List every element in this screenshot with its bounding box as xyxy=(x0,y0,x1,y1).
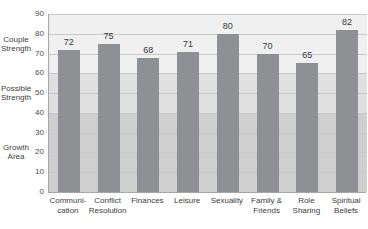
bar-value-label: 75 xyxy=(89,32,129,41)
bar xyxy=(257,54,279,192)
x-label-line: Spiritual xyxy=(321,196,368,206)
bar-chart: 0102030405060708090 CoupleStrengthPossib… xyxy=(0,0,368,229)
band-label-2: GrowthArea xyxy=(1,143,31,161)
y-tick-label-0: 0 xyxy=(4,188,44,196)
gridline-90 xyxy=(49,14,367,15)
bar xyxy=(58,50,80,192)
bar-value-label: 82 xyxy=(327,18,367,27)
band-label-line: Strength xyxy=(1,93,31,102)
y-tick-label-10: 10 xyxy=(4,168,44,176)
bar xyxy=(296,63,318,192)
band-label-line: Couple xyxy=(1,35,31,44)
bar-value-label: 72 xyxy=(49,38,89,47)
y-tick-label-60: 60 xyxy=(4,69,44,77)
bar-value-label: 80 xyxy=(208,22,248,31)
bar-value-label: 70 xyxy=(248,42,288,51)
bar xyxy=(177,52,199,192)
bar xyxy=(217,34,239,192)
bar-value-label: 68 xyxy=(128,46,168,55)
plot-area: 7275687180706582 xyxy=(48,14,367,192)
band-label-line: Strength xyxy=(1,44,31,53)
bar-value-label: 65 xyxy=(287,51,327,60)
bar xyxy=(137,58,159,192)
bar-value-label: 71 xyxy=(168,40,208,49)
y-tick-label-90: 90 xyxy=(4,10,44,18)
band-label-line: Possible xyxy=(1,84,31,93)
bar xyxy=(98,44,120,192)
band-label-line: Growth xyxy=(1,143,31,152)
y-tick-label-30: 30 xyxy=(4,129,44,137)
band-label-1: PossibleStrength xyxy=(1,84,31,102)
x-axis-label: SpiritualBeliefs xyxy=(321,196,368,216)
x-label-line: Resolution xyxy=(83,206,133,216)
y-tick-label-40: 40 xyxy=(4,109,44,117)
x-axis-line xyxy=(48,192,366,193)
bar xyxy=(336,30,358,192)
x-label-line: Beliefs xyxy=(321,206,368,216)
band-label-line: Area xyxy=(1,152,31,161)
band-label-0: CoupleStrength xyxy=(1,35,31,53)
